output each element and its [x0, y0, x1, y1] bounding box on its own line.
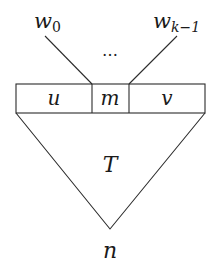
input-label-w0: w0 — [34, 9, 61, 35]
tree-diagram: w0 … wk−1 u m v T n — [0, 0, 213, 271]
ellipsis: … — [102, 41, 118, 60]
edge-w0-to-m — [45, 36, 92, 84]
input-label-wk-minus-1: wk−1 — [153, 9, 200, 35]
tree-label-T: T — [103, 152, 120, 177]
cell-label-m: m — [101, 86, 120, 110]
cell-label-u: u — [48, 86, 61, 110]
edge-wk-to-m — [129, 36, 177, 84]
root-label-n: n — [103, 238, 117, 263]
cell-label-v: v — [161, 86, 173, 110]
